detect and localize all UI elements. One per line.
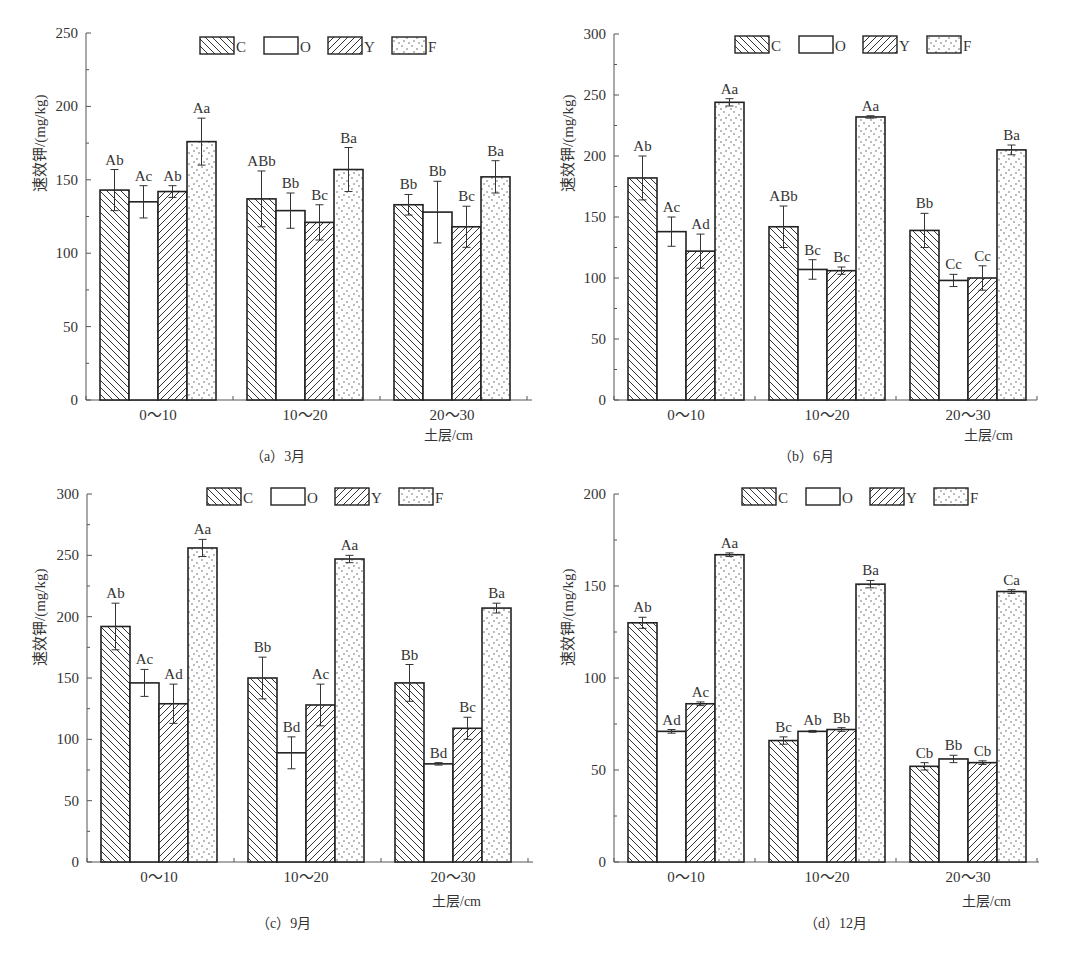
y-tick-label: 200 xyxy=(57,609,80,625)
significance-label: Bc xyxy=(804,242,821,258)
bar-F-1 xyxy=(856,584,885,862)
bar-Y-2 xyxy=(453,728,482,862)
bar-F-2 xyxy=(997,592,1026,862)
bar-F-1 xyxy=(856,117,885,400)
bar-F-1 xyxy=(335,559,364,862)
bar-C-2 xyxy=(910,230,939,400)
legend-label: F xyxy=(963,38,971,54)
bar-C-0 xyxy=(100,190,129,400)
x-axis-unit-label: 土层/cm xyxy=(964,424,1013,444)
significance-label: Bd xyxy=(283,719,301,735)
bar-F-1 xyxy=(334,170,363,400)
significance-label: Ac xyxy=(135,168,153,184)
bar-C-1 xyxy=(247,199,276,400)
x-category-label: 10～20 xyxy=(805,869,850,885)
bar-chart-d: 050100150200AbAdAcAa0～10BcAbBbBa10～20CbB… xyxy=(542,470,1085,954)
x-axis-unit-label: 土层/cm xyxy=(962,890,1011,910)
bar-Y-0 xyxy=(686,704,715,862)
legend-label: Y xyxy=(899,38,910,54)
significance-label: Aa xyxy=(721,81,739,97)
legend-label: O xyxy=(842,490,853,506)
bar-Y-0 xyxy=(158,192,187,400)
y-tick-label: 100 xyxy=(584,670,607,686)
bar-C-0 xyxy=(628,178,657,400)
x-category-label: 20～30 xyxy=(430,407,475,423)
legend-label: O xyxy=(300,39,311,55)
legend-label: Y xyxy=(364,39,375,55)
legend-label: F xyxy=(435,490,443,506)
y-tick-label: 50 xyxy=(64,793,79,809)
legend-label: F xyxy=(970,490,978,506)
significance-label: Ad xyxy=(691,216,710,232)
x-axis-unit-label: 土层/cm xyxy=(424,424,473,444)
x-category-label: 0～10 xyxy=(139,407,177,423)
x-axis-unit-label: 土层/cm xyxy=(432,890,481,910)
bar-C-0 xyxy=(101,626,130,862)
legend-label: F xyxy=(428,39,436,55)
y-tick-label: 150 xyxy=(584,578,607,594)
significance-label: Ac xyxy=(692,684,710,700)
legend-label: O xyxy=(307,490,318,506)
legend-label: Y xyxy=(906,490,917,506)
y-tick-label: 100 xyxy=(57,731,80,747)
significance-label: Bb xyxy=(833,710,851,726)
significance-label: Ba xyxy=(1003,127,1020,143)
x-category-label: 0～10 xyxy=(667,869,705,885)
legend-label: C xyxy=(243,490,253,506)
legend-label: C xyxy=(778,490,788,506)
y-tick-label: 0 xyxy=(72,854,80,870)
legend: COYF xyxy=(742,488,978,506)
bar-O-0 xyxy=(657,731,686,862)
bar-O-2 xyxy=(939,759,968,862)
significance-label: Aa xyxy=(193,100,211,116)
x-category-label: 20～30 xyxy=(946,407,991,423)
y-tick-label: 150 xyxy=(56,172,79,188)
bar-Y-1 xyxy=(305,222,334,400)
significance-label: Bc xyxy=(458,188,475,204)
significance-label: Ba xyxy=(487,143,504,159)
y-tick-label: 300 xyxy=(57,486,80,502)
significance-label: Bb xyxy=(254,639,272,655)
significance-label: Ad xyxy=(164,666,183,682)
bar-Y-2 xyxy=(452,227,481,400)
bar-Y-0 xyxy=(159,704,188,862)
bar-F-2 xyxy=(482,608,511,862)
bar-O-0 xyxy=(129,202,158,400)
significance-label: Cb xyxy=(974,743,992,759)
chart-panel-a: 050100150200250AbAcAbAa0～10ABbBbBcBa10～2… xyxy=(0,0,542,470)
significance-label: Bc xyxy=(775,719,792,735)
bar-O-0 xyxy=(657,232,686,400)
significance-label: Bb xyxy=(916,195,934,211)
bar-F-2 xyxy=(481,177,510,400)
bar-F-0 xyxy=(188,548,217,862)
significance-label: Ab xyxy=(163,168,181,184)
significance-label: Bc xyxy=(833,249,850,265)
significance-label: Ca xyxy=(1003,572,1020,588)
bar-O-2 xyxy=(939,280,968,400)
bar-F-0 xyxy=(187,142,216,400)
significance-label: Cc xyxy=(974,248,991,264)
y-tick-label: 0 xyxy=(599,392,607,408)
bar-O-1 xyxy=(798,269,827,400)
significance-label: Ab xyxy=(803,712,821,728)
significance-label: Bb xyxy=(401,647,419,663)
legend: COYF xyxy=(207,488,443,506)
chart-panel-d: 050100150200AbAdAcAa0～10BcAbBbBa10～20CbB… xyxy=(542,470,1084,940)
significance-label: Ab xyxy=(633,138,651,154)
panel-caption: （a）3月 xyxy=(250,445,305,465)
bar-F-2 xyxy=(997,150,1026,400)
significance-label: Aa xyxy=(341,537,359,553)
bar-O-1 xyxy=(798,731,827,862)
bar-chart-b: 050100150200250300AbAcAdAa0～10ABbBcBcAa1… xyxy=(542,0,1085,470)
significance-label: Ba xyxy=(862,562,879,578)
y-tick-label: 150 xyxy=(57,670,80,686)
x-category-label: 0～10 xyxy=(140,869,178,885)
y-tick-label: 250 xyxy=(584,87,607,103)
significance-label: Bd xyxy=(430,745,448,761)
y-axis-label: 速效钾/(mg/kg) xyxy=(556,95,577,193)
y-tick-label: 250 xyxy=(56,25,79,41)
significance-label: Bc xyxy=(311,187,328,203)
panel-caption: （d）12月 xyxy=(804,912,867,932)
y-tick-label: 250 xyxy=(57,547,80,563)
chart-panel-c: 050100150200250300AbAcAdAa0～10BbBdAcAa10… xyxy=(0,470,542,940)
